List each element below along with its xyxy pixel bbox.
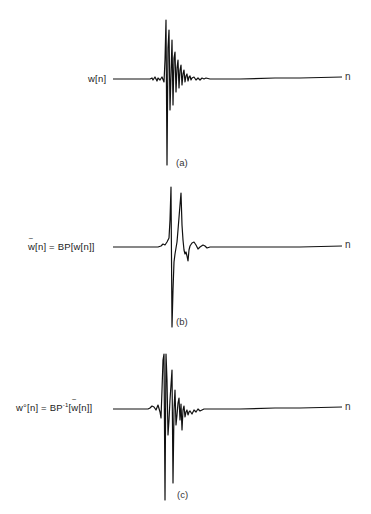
signal-label-c-rest: [n]] [78,402,92,413]
axis-label-n-c: n [345,401,351,412]
waveform-b [0,170,371,340]
waveform-a [0,0,371,170]
caption-a: (a) [176,157,188,168]
panel-b: w[n] = BP[w[n]] n (b) [0,170,371,340]
panel-a: w[n] n (a) [0,0,371,170]
signal-label-b: w[n] = BP[w[n]] [28,241,95,252]
signal-label-a: w[n] [88,73,106,84]
axis-label-n-b: n [345,239,351,250]
panel-c: w°[n] = BP-1[w[n]] n (c) [0,340,371,514]
signal-label-b-rest: [n] = BP[w[n]] [35,241,95,252]
signal-label-c-lhs: w°[n] = BP [16,402,63,413]
signal-label-c: w°[n] = BP-1[w[n]] [16,402,92,413]
caption-c: (c) [177,489,188,500]
waveform-c [0,340,371,514]
w-tilde-symbol: w [71,402,78,413]
axis-label-n-a: n [345,71,351,82]
w-tilde-symbol: w [28,241,35,252]
caption-b: (b) [176,316,188,327]
